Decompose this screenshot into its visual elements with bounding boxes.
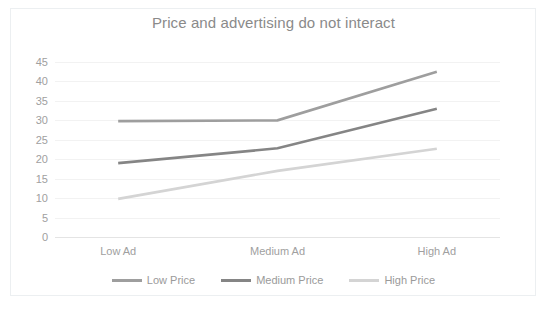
legend-label: Medium Price xyxy=(256,274,323,286)
series-line[interactable] xyxy=(118,72,437,121)
legend-label: High Price xyxy=(384,274,435,286)
series-layer xyxy=(55,62,500,237)
legend-item[interactable]: Low Price xyxy=(112,274,195,286)
y-axis-tick-label: 30 xyxy=(4,114,48,126)
x-axis: Low AdMedium AdHigh Ad xyxy=(55,245,500,261)
y-axis-tick-label: 40 xyxy=(4,75,48,87)
x-axis-tick-label: High Ad xyxy=(418,245,457,257)
y-axis: 051015202530354045 xyxy=(4,62,48,237)
y-axis-tick-label: 35 xyxy=(4,95,48,107)
legend-swatch-icon xyxy=(349,279,379,282)
y-axis-tick-label: 20 xyxy=(4,153,48,165)
y-axis-tick-label: 5 xyxy=(4,212,48,224)
y-axis-tick-label: 45 xyxy=(4,56,48,68)
chart-container: Price and advertising do not interact 05… xyxy=(0,0,547,312)
chart-legend: Low PriceMedium PriceHigh Price xyxy=(0,274,547,286)
y-axis-tick-label: 0 xyxy=(4,231,48,243)
legend-label: Low Price xyxy=(147,274,195,286)
legend-swatch-icon xyxy=(221,279,251,282)
legend-swatch-icon xyxy=(112,279,142,282)
chart-title: Price and advertising do not interact xyxy=(0,14,547,31)
x-axis-tick-label: Low Ad xyxy=(100,245,136,257)
legend-item[interactable]: High Price xyxy=(349,274,435,286)
legend-item[interactable]: Medium Price xyxy=(221,274,323,286)
x-axis-tick-label: Medium Ad xyxy=(250,245,305,257)
x-axis-line xyxy=(55,237,500,238)
y-axis-tick-label: 15 xyxy=(4,173,48,185)
y-axis-tick-label: 25 xyxy=(4,134,48,146)
series-line[interactable] xyxy=(118,149,437,199)
y-axis-tick-label: 10 xyxy=(4,192,48,204)
